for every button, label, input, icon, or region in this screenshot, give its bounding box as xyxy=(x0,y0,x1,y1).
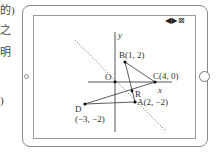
point-r xyxy=(131,90,134,93)
y-axis-label: y xyxy=(117,30,122,40)
label-a: A(2, −2) xyxy=(137,97,168,107)
label-b: B(1, 2) xyxy=(119,50,145,60)
label-d-coords: (−3, −2) xyxy=(75,114,105,124)
label-r: R xyxy=(135,89,141,99)
label-d: D xyxy=(75,104,82,114)
x-axis-label: x xyxy=(157,85,162,95)
point-d xyxy=(83,102,86,105)
segment-da xyxy=(85,102,135,104)
coordinate-graph: y x O B(1, 2) C(4, 0) A(2, −2) D (−3, −2… xyxy=(0,0,218,155)
point-o xyxy=(114,81,117,84)
origin-label: O xyxy=(105,72,112,82)
point-b xyxy=(123,60,126,63)
label-c: C(4, 0) xyxy=(153,71,179,81)
